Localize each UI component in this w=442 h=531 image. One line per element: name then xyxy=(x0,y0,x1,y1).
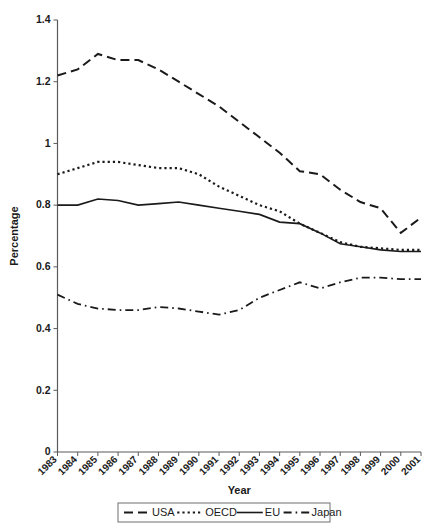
x-tick-label: 1989 xyxy=(157,453,181,477)
series-line-oecd xyxy=(58,162,422,250)
legend-label-usa: USA xyxy=(152,506,175,518)
x-tick-label: 1984 xyxy=(56,453,80,477)
x-tick-label: 1988 xyxy=(136,453,160,477)
x-tick-label: 1985 xyxy=(76,453,100,477)
y-tick-label: 1.2 xyxy=(36,75,51,87)
x-tick-label: 2000 xyxy=(379,453,403,477)
x-tick-label: 1983 xyxy=(35,453,59,477)
legend-label-japan: Japan xyxy=(312,506,342,518)
x-tick-label: 1998 xyxy=(338,453,362,477)
series-line-japan xyxy=(58,278,422,315)
x-tick-label: 1992 xyxy=(217,453,241,477)
x-tick-label: 1990 xyxy=(177,453,201,477)
y-tick-label: 0.4 xyxy=(36,322,51,334)
x-tick-label: 1999 xyxy=(359,453,383,477)
y-axis-title: Percentage xyxy=(8,206,20,265)
legend-label-oecd: OECD xyxy=(205,506,237,518)
x-tick-label: 1994 xyxy=(258,453,282,477)
x-axis-title: Year xyxy=(228,484,252,496)
x-tick-label: 1986 xyxy=(96,453,120,477)
x-tick-label: 1995 xyxy=(278,453,302,477)
series-line-usa xyxy=(58,54,422,233)
legend-label-eu: EU xyxy=(265,506,280,518)
x-tick-label: 2001 xyxy=(399,453,423,477)
y-tick-label: 0.6 xyxy=(36,260,51,272)
y-tick-label: 0.2 xyxy=(36,384,51,396)
chart-container: 00.20.40.60.811.21.419831984198519861987… xyxy=(0,0,442,531)
series-line-eu xyxy=(58,199,422,251)
chart-axes xyxy=(58,20,422,452)
x-tick-label: 1997 xyxy=(318,453,342,477)
x-tick-label: 1987 xyxy=(116,453,140,477)
line-chart: 00.20.40.60.811.21.419831984198519861987… xyxy=(0,0,442,531)
y-tick-label: 1 xyxy=(45,137,51,149)
x-tick-label: 1991 xyxy=(197,453,221,477)
x-tick-label: 1993 xyxy=(237,453,261,477)
y-tick-label: 0.8 xyxy=(36,198,51,210)
y-tick-label: 1.4 xyxy=(36,13,51,25)
x-tick-label: 1996 xyxy=(298,453,322,477)
